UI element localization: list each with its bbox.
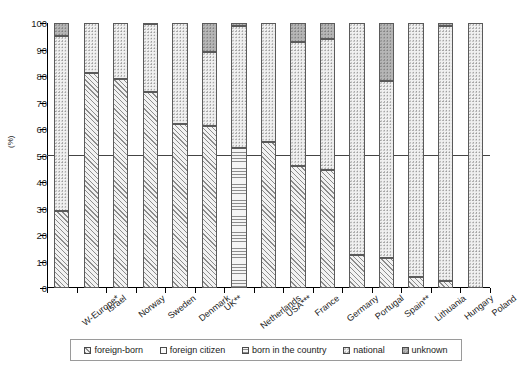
legend-item-foreign-born[interactable]: foreign-born: [84, 345, 143, 355]
x-label-lithuania: Lithuania: [433, 293, 468, 323]
legend-swatch-foreign-born-icon: [84, 347, 91, 354]
x-label-norway: Norway: [136, 293, 166, 320]
x-label-poland: Poland: [490, 293, 518, 318]
legend-item-foreign-citizen[interactable]: foreign citizen: [160, 345, 226, 355]
legend-swatch-born-in-the-country-icon: [242, 347, 249, 354]
x-label-germany: Germany: [344, 293, 379, 324]
x-label-hungary: Hungary: [462, 293, 495, 322]
chart-legend: foreign-bornforeign citizenborn in the c…: [70, 339, 462, 361]
legend-swatch-foreign-citizen-icon: [160, 347, 167, 354]
legend-swatch-national-icon: [343, 347, 350, 354]
legend-label: foreign-born: [94, 345, 143, 355]
legend-item-national[interactable]: national: [343, 345, 385, 355]
x-label-spain: Spain**: [402, 293, 432, 319]
x-label-france: France: [313, 293, 341, 318]
legend-item-unknown[interactable]: unknown: [402, 345, 448, 355]
legend-item-born-in-the-country[interactable]: born in the country: [242, 345, 327, 355]
legend-label: foreign citizen: [170, 345, 226, 355]
legend-label: unknown: [412, 345, 448, 355]
legend-swatch-unknown-icon: [402, 347, 409, 354]
legend-label: born in the country: [252, 345, 327, 355]
legend-label: national: [353, 345, 385, 355]
x-label-sweden: Sweden: [166, 293, 198, 321]
